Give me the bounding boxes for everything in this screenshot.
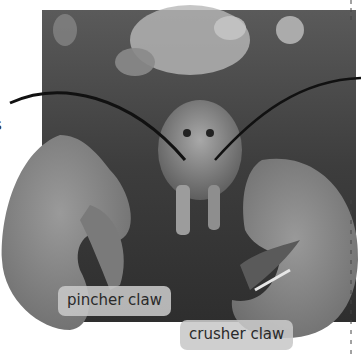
cut-off-label: s <box>0 116 2 134</box>
lobster-photo <box>0 0 361 357</box>
crusher-claw-label: crusher claw <box>180 320 293 350</box>
pincher-claw-label: pincher claw <box>58 286 171 316</box>
lobster-figure: s pincher claw crusher claw <box>0 0 361 357</box>
